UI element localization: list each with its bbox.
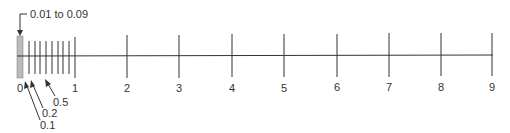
arrow-up-icon [45,79,51,87]
axis-line [17,55,493,56]
shaded-region-callout: 0.01 to 0.09 [17,8,88,36]
arrow-down-icon [17,30,23,36]
svg-text:5: 5 [281,82,287,94]
major-tick-labels: 0 1 2 3 4 5 6 7 8 9 [17,81,495,94]
arrow-up-icon [24,81,29,89]
svg-text:1: 1 [72,82,78,94]
svg-text:0.01 to 0.09: 0.01 to 0.09 [30,8,88,20]
svg-text:4: 4 [229,82,235,94]
svg-text:0: 0 [17,82,23,94]
svg-text:8: 8 [438,81,444,93]
minor-ticks [29,41,69,74]
number-line-diagram: 0 1 2 3 4 5 6 7 8 9 0.01 to 0.09 0.5 0.2… [0,0,510,133]
callout-0-5: 0.5 [45,79,68,108]
svg-text:0.2: 0.2 [42,107,57,119]
svg-text:6: 6 [334,81,340,93]
svg-text:0.1: 0.1 [40,119,55,131]
shaded-region [17,36,23,78]
svg-text:2: 2 [124,82,130,94]
svg-text:7: 7 [386,81,392,93]
svg-text:3: 3 [176,82,182,94]
svg-text:9: 9 [489,81,495,93]
